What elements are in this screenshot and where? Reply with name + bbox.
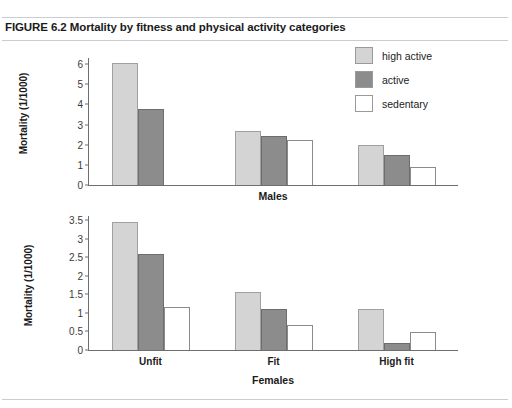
bar-group-females: High fit xyxy=(335,216,458,350)
divider-top xyxy=(2,17,508,18)
figure-container: FIGURE 6.2 Mortality by fitness and phys… xyxy=(0,0,512,408)
y-tick-mark-females xyxy=(85,312,89,313)
bar-males-high-active xyxy=(235,131,261,185)
x-tick-label-females: Fit xyxy=(212,356,335,367)
y-tick-label-females: 2 xyxy=(49,270,89,281)
bar-males-active xyxy=(261,136,287,185)
bar-females-high-active xyxy=(358,309,384,350)
bar-males-high-active xyxy=(112,63,138,185)
bar-group-males xyxy=(89,58,212,185)
y-tick-label-females: 2.5 xyxy=(49,252,89,263)
y-tick-mark-females xyxy=(85,331,89,332)
y-tick-label-females: 1.5 xyxy=(49,289,89,300)
bar-males-active xyxy=(138,109,164,185)
x-tick-label-females: High fit xyxy=(335,356,458,367)
plot-area-females: UnfitFitHigh fit 00.511.522.533.5 xyxy=(88,216,458,351)
y-tick-mark-males xyxy=(85,124,89,125)
divider-under-title xyxy=(2,40,508,41)
y-tick-mark-females xyxy=(85,275,89,276)
x-axis-title-females: Females xyxy=(88,374,458,386)
bar-females-active xyxy=(261,309,287,350)
y-tick-mark-females xyxy=(85,257,89,258)
y-tick-label-females: 1 xyxy=(49,307,89,318)
bar-females-active xyxy=(138,254,164,350)
bar-females-high-active xyxy=(112,222,138,350)
y-tick-label-males: 4 xyxy=(49,99,89,110)
y-tick-mark-males xyxy=(85,64,89,65)
y-tick-mark-females xyxy=(85,294,89,295)
y-tick-label-females: 3 xyxy=(49,233,89,244)
y-tick-label-males: 3 xyxy=(49,119,89,130)
y-tick-mark-females xyxy=(85,350,89,351)
y-tick-mark-females xyxy=(85,220,89,221)
y-axis-label-males: Mortality (1/1000) xyxy=(18,64,29,164)
bar-group-females: Fit xyxy=(212,216,335,350)
y-tick-label-females: 3.5 xyxy=(49,215,89,226)
y-tick-mark-males xyxy=(85,144,89,145)
y-tick-mark-males xyxy=(85,164,89,165)
x-tick-label-females: Unfit xyxy=(89,356,212,367)
bar-group-males xyxy=(212,58,335,185)
x-axis-title-males: Males xyxy=(88,190,458,202)
bar-females-sedentary xyxy=(287,325,313,350)
bar-males-sedentary xyxy=(287,140,313,185)
chart-panel-females: Mortality (1/1000) UnfitFitHigh fit 00.5… xyxy=(0,208,470,393)
y-tick-label-males: 2 xyxy=(49,139,89,150)
y-tick-mark-males xyxy=(85,104,89,105)
y-tick-mark-males xyxy=(85,185,89,186)
y-tick-mark-females xyxy=(85,238,89,239)
bar-groups-males xyxy=(89,58,458,185)
y-tick-label-males: 1 xyxy=(49,159,89,170)
bar-group-males xyxy=(335,58,458,185)
chart-panel-males: Mortality (1/1000) 0123456 Males xyxy=(0,46,470,206)
bar-males-active xyxy=(384,155,410,185)
bar-females-active xyxy=(384,343,410,350)
divider-bottom xyxy=(2,399,508,400)
bar-females-sedentary xyxy=(164,307,190,350)
y-axis-label-females: Mortality (1/1000) xyxy=(23,236,34,336)
y-tick-label-females: 0 xyxy=(49,345,89,356)
y-tick-mark-males xyxy=(85,84,89,85)
y-tick-label-males: 0 xyxy=(49,180,89,191)
bar-groups-females: UnfitFitHigh fit xyxy=(89,216,458,350)
bar-females-high-active xyxy=(235,292,261,350)
page-title: FIGURE 6.2 Mortality by fitness and phys… xyxy=(5,21,346,33)
plot-area-males: 0123456 xyxy=(88,58,458,186)
y-tick-label-males: 5 xyxy=(49,79,89,90)
bar-males-sedentary xyxy=(410,167,436,185)
y-tick-label-females: 0.5 xyxy=(49,326,89,337)
y-tick-label-males: 6 xyxy=(49,59,89,70)
bar-group-females: Unfit xyxy=(89,216,212,350)
bar-females-sedentary xyxy=(410,332,436,351)
bar-males-high-active xyxy=(358,145,384,185)
